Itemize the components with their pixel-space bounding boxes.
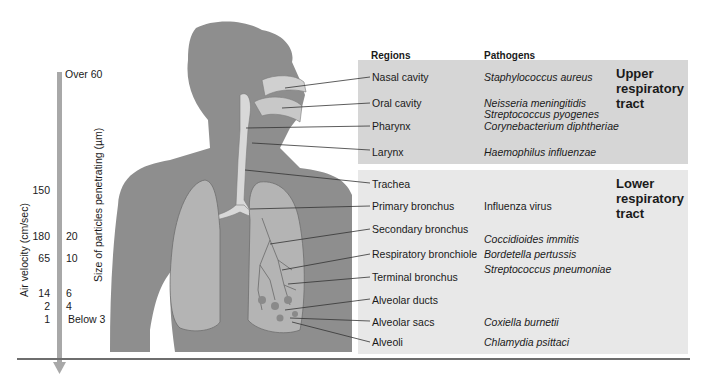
region-oral-cavity: Oral cavity	[372, 97, 422, 109]
air-velocity-value: 180	[20, 230, 50, 242]
air-velocity-value: 2	[20, 300, 50, 312]
region-trachea: Trachea	[372, 178, 410, 190]
region-alveolar-sacs: Alveolar sacs	[372, 316, 434, 328]
particle-size-value: 10	[66, 252, 78, 264]
respiratory-anatomy-illustration	[0, 0, 707, 377]
air-velocity-value: 65	[20, 252, 50, 264]
air-velocity-value: 14	[20, 287, 50, 299]
pathogen-corynebacterium-diphtheriae: Corynebacterium diphtheriae	[484, 120, 619, 132]
particle-size-value: Below 3	[68, 313, 105, 325]
upper-tract-label-line: tract	[616, 96, 684, 111]
air-velocity-value: 150	[20, 184, 50, 196]
region-alveoli: Alveoli	[372, 336, 403, 348]
upper-tract-label-line: Upper	[616, 66, 684, 81]
particle-size-value: 4	[66, 300, 72, 312]
particle-size-value: 6	[66, 287, 72, 299]
particle-size-value: Over 60	[65, 68, 102, 80]
pathogen-streptococcus-pyogenes: Streptococcus pyogenes	[484, 108, 599, 120]
particle-size-value: 20	[66, 230, 78, 242]
pathogen-influenza-virus: Influenza virus	[484, 200, 552, 212]
pathogen-chlamydia-psittaci: Chlamydia psittaci	[484, 336, 569, 348]
pathogen-haemophilus-influenzae: Haemophilus influenzae	[484, 146, 596, 158]
air-velocity-value: 1	[20, 313, 50, 325]
lower-tract-label-line: Lower	[616, 176, 684, 191]
region-pharynx: Pharynx	[372, 120, 411, 132]
pathogen-bordetella-pertussis: Bordetella pertussis	[484, 248, 576, 260]
region-larynx: Larynx	[372, 146, 404, 158]
bottom-divider	[17, 358, 690, 360]
pathogen-coxiella-burnetii: Coxiella burnetii	[484, 316, 559, 328]
region-primary-bronchus: Primary bronchus	[372, 200, 454, 212]
air-velocity-axis-label: Air velocity (cm/sec)	[18, 203, 30, 297]
region-alveolar-ducts: Alveolar ducts	[372, 294, 438, 306]
pathogen-streptococcus-pneumoniae: Streptococcus pneumoniae	[484, 263, 611, 275]
pathogens-header: Pathogens	[484, 50, 535, 61]
pathogen-staphylococcus-aureus: Staphylococcus aureus	[484, 71, 593, 83]
lower-tract-label-line: tract	[616, 206, 684, 221]
lower-tract-label-line: respiratory	[616, 191, 684, 206]
upper-tract-label: Upper respiratory tract	[616, 66, 684, 111]
region-nasal-cavity: Nasal cavity	[372, 71, 429, 83]
pathogen-coccidioides-immitis: Coccidioides immitis	[484, 233, 579, 245]
particle-scale-arrow	[53, 72, 66, 374]
lower-tract-label: Lower respiratory tract	[616, 176, 684, 221]
particle-size-axis-label: Size of particles penetrating (µm)	[92, 128, 104, 282]
region-respiratory-bronchiole: Respiratory bronchiole	[372, 248, 477, 260]
region-secondary-bronchus: Secondary bronchus	[372, 223, 468, 235]
body-silhouette	[110, 21, 352, 352]
regions-header: Regions	[371, 50, 410, 61]
upper-tract-label-line: respiratory	[616, 81, 684, 96]
region-terminal-bronchus: Terminal bronchus	[372, 271, 458, 283]
